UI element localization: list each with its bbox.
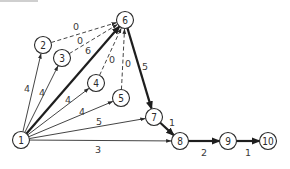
node-6: 6	[117, 12, 134, 29]
network-diagram: 446445300005121 12345678910	[0, 0, 290, 169]
node-label: 6	[122, 15, 128, 26]
edge-weight-label: 1	[245, 147, 251, 158]
edge-labels-layer: 446445300005121	[24, 21, 251, 158]
edge-1-7	[29, 119, 145, 139]
edge-weight-label: 2	[201, 147, 207, 158]
node-label: 8	[177, 136, 183, 147]
node-8: 8	[172, 133, 189, 150]
edge-weight-label: 0	[109, 54, 115, 65]
edge-weight-label: 0	[125, 58, 131, 69]
edge-weight-label: 1	[169, 117, 175, 128]
edge-weight-label: 5	[142, 61, 148, 72]
node-4: 4	[88, 75, 105, 92]
edge-weight-label: 6	[85, 45, 91, 56]
edge-weight-label: 5	[96, 116, 102, 127]
edge-weight-label: 4	[79, 106, 85, 117]
node-label: 9	[225, 136, 231, 147]
edge-weight-label: 0	[77, 35, 83, 46]
nodes-layer: 12345678910	[13, 12, 277, 150]
edges-layer	[23, 23, 259, 141]
edge-weight-label: 0	[73, 21, 79, 32]
node-label: 10	[262, 136, 274, 147]
node-3: 3	[54, 50, 71, 67]
node-10: 10	[260, 133, 277, 150]
node-5: 5	[113, 90, 130, 107]
edge-weight-label: 4	[39, 87, 45, 98]
node-label: 7	[151, 112, 157, 123]
node-label: 1	[18, 135, 24, 146]
node-7: 7	[146, 109, 163, 126]
edge-weight-label: 3	[95, 144, 101, 155]
edge-weight-label: 4	[65, 94, 71, 105]
node-label: 2	[40, 40, 46, 51]
node-label: 3	[59, 53, 65, 64]
node-1: 1	[13, 132, 30, 149]
edge-1-8	[29, 140, 171, 141]
node-2: 2	[35, 37, 52, 54]
edge-2-6	[51, 23, 116, 43]
node-9: 9	[220, 133, 237, 150]
edge-weight-label: 4	[24, 83, 30, 94]
node-label: 5	[118, 93, 124, 104]
edge-1-3	[25, 66, 58, 132]
node-label: 4	[93, 78, 99, 89]
